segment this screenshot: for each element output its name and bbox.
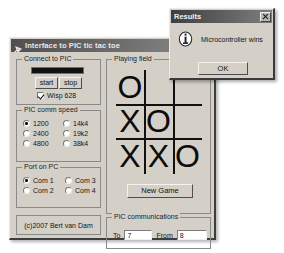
board-cell[interactable]: O: [173, 138, 202, 174]
connection-status-bar: [31, 67, 84, 74]
start-button[interactable]: start: [35, 77, 58, 89]
radio-indicator[interactable]: [23, 130, 30, 137]
radio-label: 4800: [33, 140, 49, 147]
radio-indicator[interactable]: [63, 130, 70, 137]
radio-label: Com 2: [33, 187, 54, 194]
radio-indicator[interactable]: [23, 120, 30, 127]
radio-label: 38k4: [73, 140, 88, 147]
pic-communications-legend: PIC communications: [112, 213, 180, 221]
pic-comm-speed-group: PIC comm speed 1200 14k4 2400 19k2: [16, 110, 101, 162]
radio-indicator[interactable]: [63, 140, 70, 147]
pic-communications-group: PIC communications To 7 From 8: [106, 217, 211, 249]
radio-indicator[interactable]: [23, 187, 30, 194]
radio-speed-2400[interactable]: 2400: [23, 130, 63, 137]
port-on-pc-group: Port on PC Com 1 Com 3 Com 2 Com 4: [16, 167, 101, 208]
wisp-checkbox[interactable]: [37, 92, 44, 99]
radio-speed-14k4[interactable]: 14k4: [63, 120, 97, 127]
close-icon[interactable]: [260, 12, 271, 22]
wisp-checkbox-row[interactable]: Wisp 628: [37, 92, 76, 99]
results-dialog-title: Results: [174, 12, 260, 21]
comm-speed-options: 1200 14k4 2400 19k2 4800: [23, 120, 97, 147]
connect-to-pic-group: Connect to PIC start stop Wisp 628: [16, 59, 101, 105]
app-pin-icon: [13, 41, 22, 50]
board-cells: O X O X X O: [116, 70, 202, 174]
stop-button[interactable]: stop: [59, 77, 82, 89]
radio-indicator[interactable]: [23, 140, 30, 147]
main-window-title: Interface to PIC tic tac toe: [25, 41, 189, 50]
radio-port-com3[interactable]: Com 3: [65, 177, 97, 184]
radio-speed-19k2[interactable]: 19k2: [63, 130, 97, 137]
radio-speed-4800[interactable]: 4800: [23, 140, 63, 147]
from-label: From: [156, 232, 172, 239]
results-message-row: Microcontroller wins: [177, 31, 268, 48]
from-input[interactable]: 8: [177, 230, 207, 240]
radio-label: Com 3: [75, 177, 96, 184]
radio-port-com2[interactable]: Com 2: [23, 187, 65, 194]
results-dialog: Results Microcontroller wins OK: [169, 8, 275, 80]
radio-label: 19k2: [73, 130, 88, 137]
radio-label: 1200: [33, 120, 49, 127]
radio-indicator[interactable]: [65, 177, 72, 184]
playing-field-group: Playing field O X O X X O New Gam: [106, 59, 211, 214]
results-message-text: Microcontroller wins: [201, 36, 263, 43]
radio-speed-1200[interactable]: 1200: [23, 120, 63, 127]
radio-label: Com 1: [33, 177, 54, 184]
communications-row: To 7 From 8: [113, 230, 207, 240]
connect-button-row: start stop: [35, 77, 82, 89]
radio-port-com4[interactable]: Com 4: [65, 187, 97, 194]
port-on-pc-legend: Port on PC: [22, 163, 60, 171]
to-label: To: [113, 232, 120, 239]
radio-indicator[interactable]: [23, 177, 30, 184]
new-game-button[interactable]: New Game: [127, 184, 193, 198]
connect-to-pic-legend: Connect to PIC: [22, 55, 73, 63]
port-options: Com 1 Com 3 Com 2 Com 4: [23, 177, 97, 194]
radio-indicator[interactable]: [65, 187, 72, 194]
ok-button[interactable]: OK: [198, 62, 248, 75]
radio-speed-38k4[interactable]: 38k4: [63, 140, 97, 147]
tic-tac-toe-board[interactable]: O X O X X O: [116, 70, 202, 174]
board-cell[interactable]: O: [116, 70, 144, 104]
radio-label: 14k4: [73, 120, 88, 127]
radio-label: Com 4: [75, 187, 96, 194]
board-cell[interactable]: X: [144, 138, 173, 174]
pic-comm-speed-legend: PIC comm speed: [22, 106, 80, 114]
playing-field-legend: Playing field: [112, 55, 154, 63]
radio-label: 2400: [33, 130, 49, 137]
board-cell[interactable]: X: [116, 104, 144, 138]
info-icon: [177, 31, 194, 48]
credit-text: (c)2007 Bert van Dam: [24, 222, 92, 229]
radio-port-com1[interactable]: Com 1: [23, 177, 65, 184]
radio-indicator[interactable]: [63, 120, 70, 127]
results-dialog-body: Microcontroller wins OK: [171, 23, 272, 77]
results-dialog-titlebar[interactable]: Results: [171, 10, 272, 23]
board-cell[interactable]: O: [144, 104, 173, 138]
to-input[interactable]: 7: [124, 230, 152, 240]
credit-box: (c)2007 Bert van Dam: [16, 215, 101, 235]
wisp-checkbox-label: Wisp 628: [47, 92, 76, 99]
board-cell[interactable]: [173, 104, 202, 138]
board-cell[interactable]: X: [116, 138, 144, 174]
